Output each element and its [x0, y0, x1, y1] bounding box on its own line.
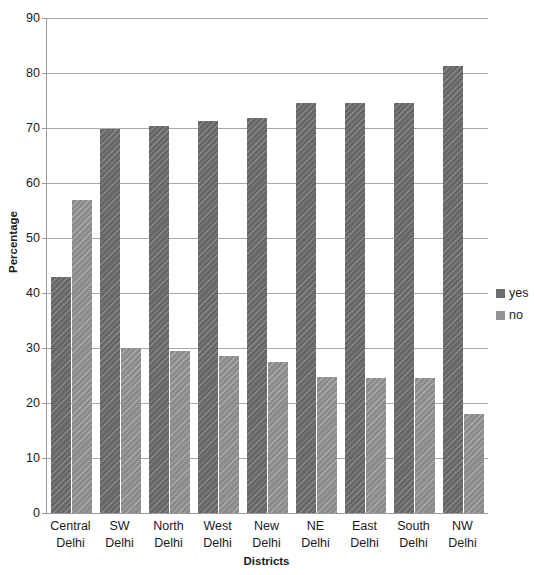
bar-yes[interactable] [296, 103, 316, 513]
bar-group [145, 18, 194, 513]
x-axis-tick-label: NorthDelhi [144, 518, 193, 552]
bar-yes[interactable] [443, 66, 463, 513]
bar-no[interactable] [170, 351, 190, 513]
bar-group [96, 18, 145, 513]
y-axis-tick-label: 60 [6, 177, 40, 190]
y-axis-tick-label: 70 [6, 122, 40, 135]
x-axis-tick-label-line: New [242, 518, 291, 535]
chart-title [0, 0, 490, 2]
bar-no[interactable] [268, 362, 288, 513]
x-axis-tick-label: WestDelhi [193, 518, 242, 552]
y-axis-tick-label: 20 [6, 397, 40, 410]
y-axis-tick-label: 0 [6, 507, 40, 520]
bar-no[interactable] [366, 378, 386, 513]
legend-item-yes[interactable]: yes [496, 282, 534, 304]
x-axis-tick-label-line: Central [46, 518, 95, 535]
bar-yes[interactable] [149, 126, 169, 513]
x-axis-tick-label-line: NE Delhi [291, 518, 340, 552]
x-axis-tick-label: NE Delhi [291, 518, 340, 552]
legend-item-no[interactable]: no [496, 304, 534, 326]
x-axis-tick-label-line: Delhi [144, 535, 193, 552]
bar-group [47, 18, 96, 513]
y-axis-tick-label: 90 [6, 12, 40, 25]
bar-no[interactable] [219, 356, 239, 513]
bar-yes[interactable] [198, 121, 218, 513]
legend-swatch-icon [496, 289, 505, 298]
x-axis-tick-label-line: West [193, 518, 242, 535]
bar-yes[interactable] [247, 118, 267, 513]
bar-yes[interactable] [100, 129, 120, 513]
x-axis-tick-label: EastDelhi [340, 518, 389, 552]
x-axis-tick-label-line: East [340, 518, 389, 535]
bar-group [243, 18, 292, 513]
bar-yes[interactable] [51, 277, 71, 514]
x-axis-tick-label-line: Delhi [242, 535, 291, 552]
y-axis-tick-label: 10 [6, 452, 40, 465]
x-axis-tick-labels: CentralDelhiSW DelhiNorthDelhiWestDelhiN… [46, 518, 487, 560]
bar-no[interactable] [121, 348, 141, 513]
x-axis-tick-label: SouthDelhi [389, 518, 438, 552]
plot-area [46, 18, 488, 514]
x-axis-title: Districts [46, 555, 487, 567]
bar-no[interactable] [415, 378, 435, 513]
bar-group [390, 18, 439, 513]
bar-group [341, 18, 390, 513]
y-axis-tick-label: 50 [6, 232, 40, 245]
x-axis-tick-label: CentralDelhi [46, 518, 95, 552]
bar-chart: Percentage 0102030405060708090 CentralDe… [0, 0, 534, 575]
y-axis-tick-label: 40 [6, 287, 40, 300]
x-axis-tick-label: NW Delhi [438, 518, 487, 552]
x-axis-tick-label-line: NW Delhi [438, 518, 487, 552]
bar-yes[interactable] [345, 103, 365, 513]
bar-yes[interactable] [394, 103, 414, 513]
legend-label: no [509, 309, 523, 322]
x-axis-tick-label-line: Delhi [46, 535, 95, 552]
x-axis-tick-label: NewDelhi [242, 518, 291, 552]
y-axis-tick [42, 513, 47, 514]
x-axis-tick-label-line: Delhi [389, 535, 438, 552]
bar-no[interactable] [464, 414, 484, 513]
legend-swatch-icon [496, 311, 505, 320]
x-axis-tick-label-line: SW Delhi [95, 518, 144, 552]
legend-label: yes [509, 287, 528, 300]
x-axis-tick-label-line: Delhi [193, 535, 242, 552]
y-axis-tick-label: 80 [6, 67, 40, 80]
y-axis-tick-label: 30 [6, 342, 40, 355]
y-axis-tick-labels: 0102030405060708090 [0, 18, 40, 513]
bar-no[interactable] [317, 377, 337, 513]
bar-group [194, 18, 243, 513]
bar-group [439, 18, 488, 513]
legend: yesno [496, 282, 534, 326]
bar-no[interactable] [72, 200, 92, 514]
x-axis-tick-label: SW Delhi [95, 518, 144, 552]
x-axis-tick-label-line: South [389, 518, 438, 535]
x-axis-tick-label-line: Delhi [340, 535, 389, 552]
x-axis-tick-label-line: North [144, 518, 193, 535]
bar-group [292, 18, 341, 513]
